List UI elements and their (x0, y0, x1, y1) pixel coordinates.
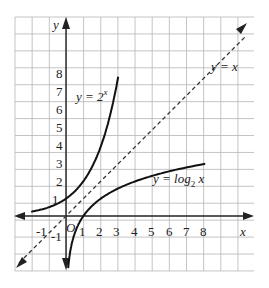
x-tick-label: 7 (183, 224, 190, 239)
x-tick-label: 8 (200, 224, 207, 239)
x-tick-label: -1 (36, 224, 47, 239)
y-tick-label: 7 (56, 84, 63, 99)
x-tick-label: 1 (79, 224, 86, 239)
origin-label: O (66, 220, 76, 235)
y-axis-label: y (51, 17, 59, 32)
y-tick-label: 8 (56, 66, 63, 81)
x-axis-arrow-left-icon (14, 212, 25, 220)
x-tick-label: 2 (96, 224, 103, 239)
x-tick-label: 5 (148, 224, 155, 239)
y-tick-label: 1 (52, 192, 59, 207)
x-axis (14, 212, 254, 220)
y-tick-label: 2 (56, 174, 63, 189)
y-tick-label: 4 (56, 138, 63, 153)
exp-curve-label: y = 2x (74, 87, 108, 104)
y-axis-arrow-up-icon (62, 17, 70, 29)
x-axis-arrow-right-icon (243, 212, 254, 220)
identity-line-label: y = x (209, 59, 238, 74)
x-axis-label: x (239, 224, 246, 239)
x-tick-label: 4 (131, 224, 138, 239)
x-tick-label: 6 (166, 224, 173, 239)
x-tick-label: 3 (113, 224, 120, 239)
y-equals-x-arrow-down-icon (16, 257, 27, 268)
y-tick-label: 5 (56, 120, 63, 135)
graph: -1 1 2 3 4 5 6 7 8 -1 1 2 3 4 5 6 7 8 O … (0, 0, 269, 288)
y-tick-label: 3 (56, 156, 63, 171)
curve-exponential (31, 77, 118, 212)
y-tick-label: 6 (56, 102, 63, 117)
y-tick-labels: -1 1 2 3 4 5 6 7 8 (51, 66, 63, 244)
y-tick-label: -1 (51, 229, 62, 244)
